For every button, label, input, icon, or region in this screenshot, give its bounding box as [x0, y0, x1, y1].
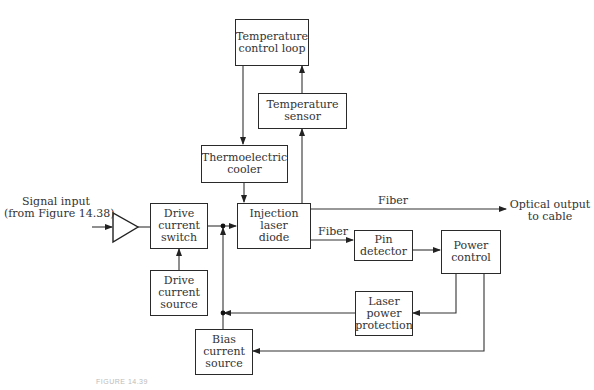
signal-input-label: Signal input (from Figure 14.38) [4, 196, 108, 220]
figure-caption: FIGURE 14.39 [96, 378, 148, 385]
optical-output-line2: to cable [508, 211, 592, 223]
block-pin-detector: Pin detector [354, 230, 413, 261]
signal-input-line2: (from Figure 14.38) [4, 208, 108, 220]
block-temperature-sensor: Temperature sensor [258, 93, 347, 129]
block-injection-laser-diode: Injection laser diode [237, 203, 311, 249]
block-temperature-control-loop: Temperature control loop [235, 19, 309, 66]
junction-dot [221, 311, 226, 316]
block-power-control: Power control [441, 230, 501, 274]
block-drive-current-switch: Drive current switch [150, 203, 208, 249]
fiber-label-top: Fiber [378, 195, 408, 207]
junction-dot [221, 224, 226, 229]
block-drive-current-source: Drive current source [150, 270, 208, 316]
optical-output-label: Optical output to cable [508, 199, 592, 223]
fiber-label-bottom: Fiber [318, 226, 348, 238]
block-bias-current-source: Bias current source [195, 329, 253, 375]
block-thermoelectric-cooler: Thermoelectric cooler [201, 145, 288, 183]
block-laser-power-protection: Laser power protection [355, 291, 413, 336]
